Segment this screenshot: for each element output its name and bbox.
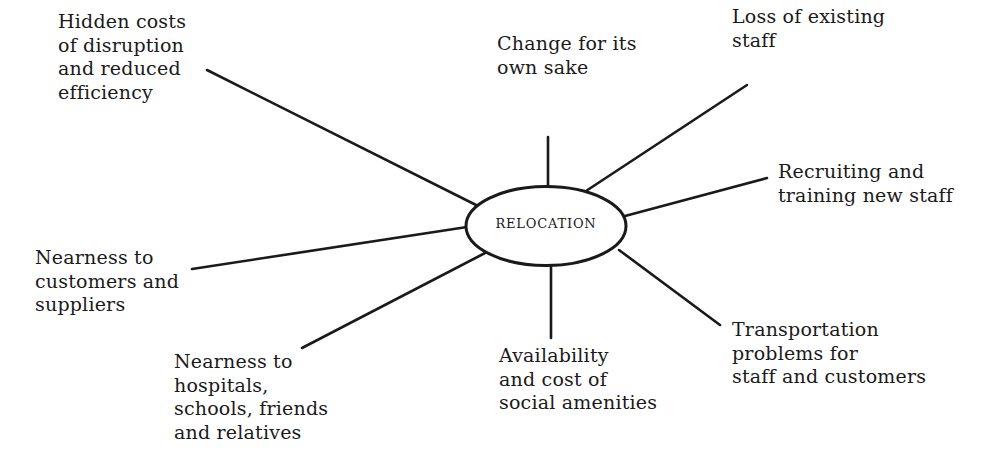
- line-nearness-customers: [192, 227, 467, 269]
- branch-transportation: Transportation problems for staff and cu…: [732, 318, 926, 389]
- line-transportation: [619, 250, 720, 325]
- branch-availability: Availability and cost of social amenitie…: [499, 344, 657, 415]
- branch-nearness-hospitals: Nearness to hospitals, schools, friends …: [174, 350, 328, 444]
- center-node-label: RELOCATION: [470, 216, 622, 231]
- line-loss-of-staff: [586, 85, 747, 191]
- branch-hidden-costs: Hidden costs of disruption and reduced e…: [58, 10, 186, 104]
- line-recruiting: [625, 178, 767, 216]
- branch-nearness-customers: Nearness to customers and suppliers: [35, 246, 179, 317]
- line-nearness-hospitals: [302, 253, 485, 348]
- branch-loss-of-staff: Loss of existing staff: [732, 5, 885, 52]
- branch-change: Change for its own sake: [497, 32, 637, 79]
- line-hidden-costs: [207, 70, 482, 208]
- branch-recruiting: Recruiting and training new staff: [778, 160, 953, 207]
